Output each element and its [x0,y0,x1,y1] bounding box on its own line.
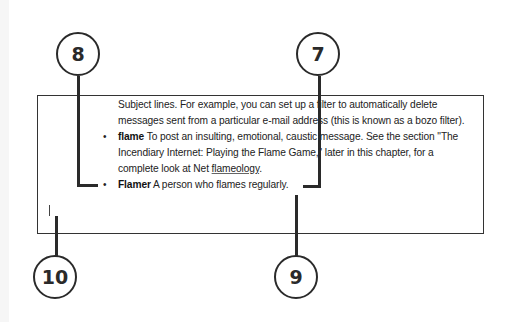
text-prefix: complete look at Net [118,163,212,174]
callout-9: 9 [274,255,318,299]
callout-10: 10 [33,255,77,299]
text-cursor [49,205,50,216]
bullet-icon: • [103,131,107,142]
definition-flamer: A person who flames regularly. [151,179,289,190]
term-flamer: Flamer [118,179,151,190]
leader-line-10 [55,216,58,257]
term-flame: flame [118,131,144,142]
page-edge [0,0,9,322]
list-item-flame: flame To post an insulting, emotional, c… [118,131,458,142]
text-suffix: . [259,163,262,174]
leader-line-8-horizontal [77,184,98,187]
text-line-4: Incendiary Internet: Playing the Flame G… [118,147,434,158]
callout-8: 8 [56,32,100,76]
leader-line-7 [318,76,321,188]
text-line-2: messages sent from a particular e-mail a… [118,115,464,126]
leader-line-8 [77,76,80,187]
leader-line-7-horizontal [303,185,321,188]
text-line-5: complete look at Net flameology. [118,163,262,174]
callout-7: 7 [296,32,340,76]
definition-flame: To post an insulting, emotional, caustic… [144,131,458,142]
spelling-flagged-word[interactable]: flameology [212,163,260,174]
leader-line-9 [295,195,298,257]
text-line-1: Subject lines. For example, you can set … [118,99,437,110]
list-item-flamer: Flamer A person who flames regularly. [118,179,289,190]
bullet-icon: • [103,179,107,190]
